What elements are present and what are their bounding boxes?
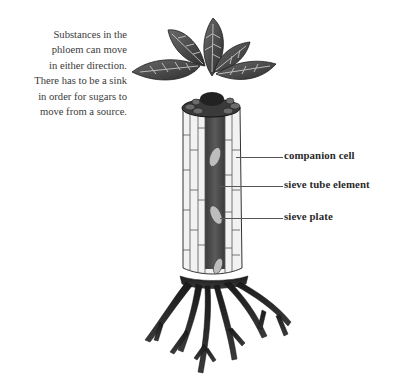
phloem-illustration: [0, 0, 393, 392]
sieve-tube-element: [205, 107, 225, 269]
label-companion-cell: companion cell: [284, 149, 355, 161]
label-sieve-plate: sieve plate: [284, 210, 333, 222]
roots-icon: [145, 276, 291, 373]
leaves-icon: [132, 18, 276, 80]
leader-line-sieve-tube-element: [218, 186, 283, 187]
leader-line-companion-cell: [236, 157, 283, 158]
phloem-column: [182, 92, 242, 275]
leader-line-sieve-plate: [220, 218, 283, 219]
label-sieve-tube-element: sieve tube element: [284, 178, 370, 190]
